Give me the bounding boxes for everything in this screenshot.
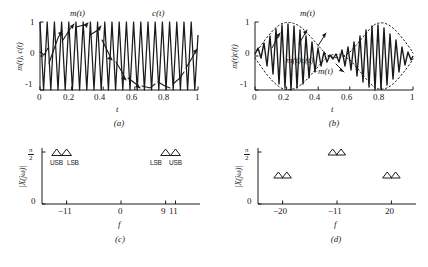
panel-a-xtick-06: 0.6: [126, 92, 137, 102]
panel-b-caption: (b): [304, 118, 364, 128]
panel-b-xtick-1: 1: [410, 92, 415, 102]
panel-a-xtick-04: 0.4: [94, 92, 105, 102]
panel-b-xtick-0: 0: [252, 92, 257, 102]
panel-b: m(t)c(t) 1 0 -1 m(t) m(t)c(t) −m(t): [214, 0, 428, 134]
panel-d-xtick-20: 20: [385, 206, 394, 216]
panel-d-caption: (d): [306, 234, 366, 244]
panel-c-xtick-0: 0: [118, 206, 123, 216]
panel-a-plot: [0, 0, 214, 134]
panel-b-plot: [214, 0, 428, 134]
panel-a-xtick-1: 1: [195, 92, 200, 102]
panel-b-xtick-08: 0.8: [373, 92, 384, 102]
panel-b-xlabel: t: [331, 104, 334, 114]
panel-c-xtick-neg11: −11: [58, 206, 72, 216]
panel-a-xtick-08: 0.8: [158, 92, 169, 102]
panel-c-xtick-11: 11: [169, 206, 178, 216]
panel-a-xlabel: t: [116, 104, 119, 114]
panel-a-xtick-02: 0.2: [63, 92, 74, 102]
panel-d-xtick-neg11: −11: [328, 206, 342, 216]
panel-c: |X(jω)| π 2 0 USB LSB LSB USB: [0, 134, 214, 267]
panel-c-xtick-9: 9: [161, 206, 166, 216]
panel-d: |X(jω)| π 2 0: [214, 134, 428, 267]
panel-c-xlabel: f: [118, 219, 121, 229]
panel-d-plot: [214, 134, 428, 267]
panel-a: m(t), c(t) 1 0 -1 m(t) c(t): [0, 0, 214, 134]
panel-c-plot: [0, 134, 214, 267]
panel-b-xtick-02: 0.2: [278, 92, 289, 102]
panel-a-xtick-0: 0: [37, 92, 42, 102]
panel-b-xtick-06: 0.6: [341, 92, 352, 102]
panel-d-xtick-neg20: −20: [273, 206, 287, 216]
panel-a-caption: (a): [89, 118, 149, 128]
panel-b-xtick-04: 0.4: [309, 92, 320, 102]
panel-c-caption: (c): [90, 234, 150, 244]
figure-root: m(t), c(t) 1 0 -1 m(t) c(t): [0, 0, 428, 267]
panel-d-xlabel: f: [334, 219, 337, 229]
